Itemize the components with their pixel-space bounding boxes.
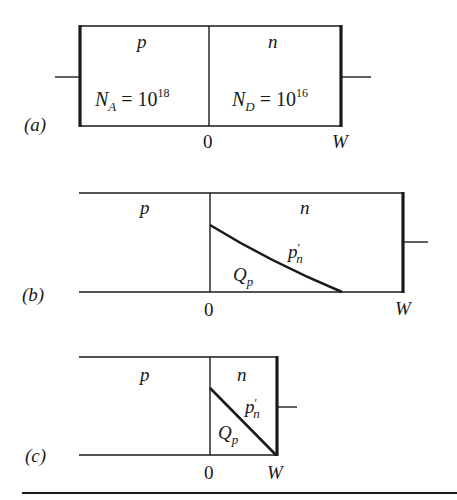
panel-b-stored-charge-label: Qp	[233, 265, 253, 288]
panel-b-axis-end: W	[395, 299, 411, 318]
panel-a-axis-end: W	[332, 132, 348, 151]
panel-c-geometry	[79, 356, 297, 456]
panel-a-acceptor-doping: NA = 1018	[95, 87, 170, 113]
panel-b-region-p-label: p	[140, 198, 150, 217]
panel-c-region-n-label: n	[237, 365, 247, 384]
panel-a-region-p-label: p	[137, 32, 147, 51]
panel-b-geometry	[79, 192, 428, 293]
panel-c-axis-end: W	[267, 463, 283, 482]
panel-b-caption: (b)	[22, 285, 44, 304]
panel-a-donor-doping: ND = 1016	[232, 87, 308, 113]
panel-a-region-n-label: n	[268, 32, 278, 51]
panel-c-stored-charge-label: Qp	[218, 423, 238, 446]
panel-c-caption: (c)	[25, 446, 46, 465]
panel-b-minority-carrier-label: p′n	[288, 242, 303, 265]
panel-a-axis-origin: 0	[203, 132, 213, 151]
panel-c-minority-carrier-label: p′n	[245, 397, 260, 420]
panel-a-caption: (a)	[24, 115, 46, 134]
panel-b-region-n-label: n	[300, 198, 310, 217]
panel-c-region-p-label: p	[140, 365, 150, 384]
panel-b-axis-origin: 0	[204, 300, 214, 319]
panel-c-axis-origin: 0	[204, 463, 214, 482]
